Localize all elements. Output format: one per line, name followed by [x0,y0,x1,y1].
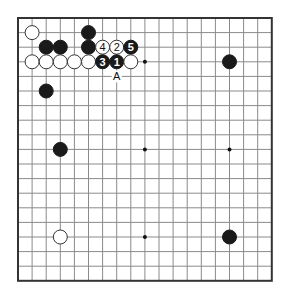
move-number: 1 [114,56,120,68]
move-number: 4 [100,41,106,53]
move-number: 3 [100,56,106,68]
move-number: 2 [114,41,120,53]
black-stone [53,142,67,156]
white-stone [124,55,138,69]
white-stone [67,55,81,69]
white-stone: 4 [96,40,110,54]
black-stone [223,55,237,69]
black-stone [39,84,53,98]
black-stone: 5 [124,40,138,54]
black-stone [82,40,96,54]
star-point [143,235,147,239]
black-stone [223,230,237,244]
white-stone [82,55,96,69]
svg-text:A: A [113,70,121,82]
point-labels: A [112,70,122,82]
black-stone: 1 [110,55,124,69]
white-stone [25,55,39,69]
move-number: 5 [128,41,134,53]
white-stone [39,55,53,69]
black-stone: 3 [96,55,110,69]
star-point [228,147,232,151]
white-stone [25,26,39,40]
go-board-diagram: 42531 A [0,0,292,300]
star-point [143,147,147,151]
star-point [143,60,147,64]
black-stone [82,26,96,40]
black-stone [53,40,67,54]
black-stone [39,40,53,54]
white-stone: 2 [110,40,124,54]
point-label: A [112,70,122,82]
white-stone [53,230,67,244]
white-stone [53,55,67,69]
